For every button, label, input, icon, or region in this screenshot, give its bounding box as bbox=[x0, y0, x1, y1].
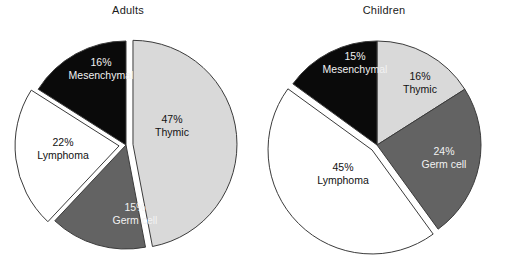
panel-title-adults: Adults bbox=[0, 4, 256, 16]
pie-children bbox=[256, 18, 512, 271]
chart-panel-adults: Adults 47% Thymic 15% Germ cell 22% Lymp… bbox=[0, 0, 256, 271]
panel-title-children: Children bbox=[256, 4, 512, 16]
chart-panel-children: Children 16% Thymic 24% Germ cell 45% Ly… bbox=[256, 0, 512, 271]
adults-slice-thymic[interactable] bbox=[133, 40, 237, 246]
pie-adults bbox=[0, 18, 256, 271]
pie-chart-figure: Adults 47% Thymic 15% Germ cell 22% Lymp… bbox=[0, 0, 513, 271]
